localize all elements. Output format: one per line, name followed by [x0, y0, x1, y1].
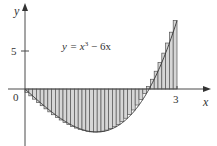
riemann-rectangle: [55, 89, 59, 117]
riemann-rectangle: [90, 89, 94, 132]
riemann-rectangle: [109, 89, 113, 129]
riemann-rectangle: [101, 89, 105, 131]
function-equation-label: y = x3 − 6x: [61, 40, 111, 52]
riemann-rectangle: [105, 89, 109, 130]
riemann-rectangle: [135, 89, 139, 105]
y-axis-arrow-icon: [22, 3, 28, 11]
equation-prefix: y = x: [61, 40, 85, 52]
riemann-sum-chart: y x 0 3 5 y = x3 − 6x: [0, 0, 217, 146]
riemann-rectangle: [74, 89, 78, 128]
riemann-rectangle: [71, 89, 75, 126]
riemann-rectangle: [116, 89, 120, 124]
riemann-rectangle: [82, 89, 86, 131]
riemann-rectangle: [154, 71, 158, 89]
origin-label: 0: [13, 91, 19, 103]
riemann-rectangle: [86, 89, 90, 131]
riemann-rectangle: [52, 89, 56, 115]
riemann-rectangle: [59, 89, 63, 120]
y-axis-label: y: [13, 4, 20, 18]
riemann-rectangle: [63, 89, 67, 122]
riemann-rectangle: [93, 89, 97, 132]
x-tick-label-3: 3: [173, 93, 179, 105]
riemann-rectangle: [78, 89, 82, 129]
riemann-rectangle: [131, 89, 135, 110]
riemann-rectangle: [128, 89, 132, 114]
riemann-rectangle: [139, 89, 143, 100]
x-axis-arrow-icon: [203, 86, 211, 92]
riemann-rectangles: [25, 21, 177, 132]
riemann-rectangle: [97, 89, 101, 132]
x-axis-label: x: [202, 95, 209, 109]
riemann-rectangle: [67, 89, 71, 125]
riemann-rectangle: [166, 43, 170, 89]
equation-suffix: − 6x: [88, 40, 111, 52]
riemann-rectangle: [143, 89, 147, 93]
riemann-rectangle: [112, 89, 116, 127]
riemann-rectangle: [120, 89, 124, 122]
riemann-rectangle: [124, 89, 128, 118]
y-tick-label-5: 5: [11, 45, 17, 57]
riemann-rectangle: [48, 89, 52, 112]
